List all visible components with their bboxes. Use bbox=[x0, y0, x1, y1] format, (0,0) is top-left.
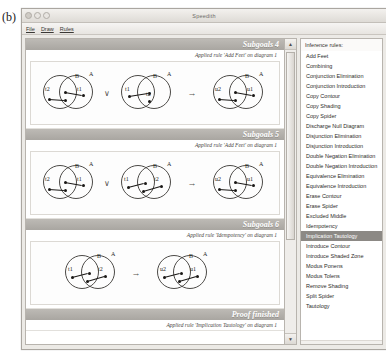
rule-list-item[interactable]: Discharge Null Diagram bbox=[301, 121, 382, 131]
contour-label-a: A bbox=[89, 161, 93, 167]
contour-circle[interactable] bbox=[173, 255, 207, 289]
spider-foot[interactable] bbox=[64, 99, 67, 102]
rule-list-item[interactable]: Combining bbox=[301, 61, 382, 71]
spider-label[interactable]: t2 bbox=[98, 266, 103, 272]
rule-list-item[interactable]: Double Negation Elimination bbox=[301, 151, 382, 161]
diagram-canvas[interactable]: BAt2t1∨BAt1t2→BAu2u1 bbox=[30, 151, 280, 215]
spider-foot[interactable] bbox=[88, 272, 91, 275]
menu-draw-label: Draw bbox=[41, 26, 54, 32]
spider-foot[interactable] bbox=[148, 100, 151, 103]
venn-diagram[interactable]: BAt2t1 bbox=[37, 71, 99, 115]
contour-label-a: A bbox=[259, 71, 263, 77]
venn-diagram[interactable]: BAu2u1 bbox=[151, 251, 213, 295]
rule-list-item[interactable]: Modus Tolens bbox=[301, 271, 382, 281]
rule-list-item[interactable]: Double Negation Introduction bbox=[301, 161, 382, 171]
proof-subgoal-section: Subgoals 4Applied rule 'Add Feet' on dia… bbox=[26, 39, 284, 129]
proof-vertical-scrollbar[interactable]: ▲ ▼ bbox=[285, 38, 297, 345]
venn-diagram[interactable]: BAu2u1 bbox=[207, 71, 269, 115]
inference-rules-panel: Inference rules: Add FeetCombiningConjun… bbox=[300, 38, 383, 345]
rule-list-item[interactable]: Erase Contour bbox=[301, 191, 382, 201]
scroll-down-arrow-icon[interactable]: ▼ bbox=[285, 333, 296, 344]
rule-list-item[interactable]: Implication Tautology bbox=[301, 231, 382, 241]
spider-foot[interactable] bbox=[234, 99, 237, 102]
applied-rule-text: Applied rule 'Add Feet' on diagram 1 bbox=[195, 142, 277, 148]
spider-foot[interactable] bbox=[252, 94, 255, 97]
scroll-up-arrow-icon[interactable]: ▲ bbox=[285, 39, 296, 50]
spider-label[interactable]: u1 bbox=[190, 266, 196, 272]
rule-list-item[interactable]: Modus Ponens bbox=[301, 261, 382, 271]
spider-foot[interactable] bbox=[234, 189, 237, 192]
spider-label[interactable]: t1 bbox=[125, 86, 130, 92]
contour-label-b: B bbox=[153, 163, 157, 169]
spider-label[interactable]: t1 bbox=[77, 86, 82, 92]
spider-label[interactable]: u2 bbox=[160, 266, 166, 272]
spider-label[interactable]: u1 bbox=[247, 176, 253, 182]
rule-list-item[interactable]: Disjunction Introduction bbox=[301, 141, 382, 151]
proof-finished-rule-row: Applied rule 'Implication Tautology' on … bbox=[26, 320, 284, 330]
inference-rules-list[interactable]: Add FeetCombiningConjunction Elimination… bbox=[301, 51, 382, 340]
venn-diagram[interactable]: BAt2t1 bbox=[37, 161, 99, 205]
venn-diagram[interactable]: BAt1t2 bbox=[115, 71, 177, 115]
implication-operator: → bbox=[177, 178, 207, 188]
menu-rules[interactable]: Rules bbox=[60, 26, 74, 32]
spider-label[interactable]: t2 bbox=[45, 176, 50, 182]
spider-foot[interactable] bbox=[252, 184, 255, 187]
spider-foot[interactable] bbox=[82, 184, 85, 187]
spider-foot[interactable] bbox=[180, 272, 183, 275]
rule-list-item[interactable]: Idempotency bbox=[301, 221, 382, 231]
menu-draw[interactable]: Draw bbox=[41, 26, 54, 32]
contour-label-b: B bbox=[75, 163, 79, 169]
rule-list-item[interactable]: Copy Spider bbox=[301, 111, 382, 121]
rule-list-item[interactable]: Equivalence Introduction bbox=[301, 181, 382, 191]
screenshot-root: (b) Speedith File Draw Rules Subgoals 4A… bbox=[0, 0, 386, 356]
rule-list-item[interactable]: Conjunction Elimination bbox=[301, 71, 382, 81]
venn-diagram[interactable]: BAu2u1 bbox=[207, 161, 269, 205]
rule-list-item[interactable]: Introduce Contour bbox=[301, 241, 382, 251]
figure-label: (b) bbox=[2, 10, 16, 25]
spider-foot[interactable] bbox=[64, 189, 67, 192]
rule-list-item[interactable]: Erase Spider bbox=[301, 201, 382, 211]
spider-label[interactable]: u2 bbox=[215, 176, 221, 182]
rule-list-item[interactable]: Split Spider bbox=[301, 291, 382, 301]
rule-list-item[interactable]: Introduce Shaded Zone bbox=[301, 251, 382, 261]
proof-finished-header[interactable]: Proof finished bbox=[26, 309, 284, 320]
diagram-canvas[interactable]: BAt1t2→BAu2u1 bbox=[30, 241, 280, 305]
subgoal-header-label: Subgoals 6 bbox=[243, 220, 279, 229]
rule-list-item[interactable]: Disjunction Elimination bbox=[301, 131, 382, 141]
rule-list-item[interactable]: Tautology bbox=[301, 301, 382, 311]
contour-circle[interactable] bbox=[81, 255, 115, 289]
contour-circle[interactable] bbox=[137, 165, 171, 199]
subgoal-header[interactable]: Subgoals 6 bbox=[26, 219, 284, 230]
spider-label[interactable]: t2 bbox=[146, 91, 151, 97]
spider-label[interactable]: t1 bbox=[68, 266, 73, 272]
scrollbar-thumb[interactable] bbox=[286, 52, 295, 240]
spider-label[interactable]: t1 bbox=[77, 176, 82, 182]
contour-circle[interactable] bbox=[137, 75, 171, 109]
rule-list-item[interactable]: Conjunction Introduction bbox=[301, 81, 382, 91]
spider-foot[interactable] bbox=[82, 94, 85, 97]
venn-diagram[interactable]: BAt1t2 bbox=[59, 251, 121, 295]
diagram-slot: BAu2u1 bbox=[207, 71, 269, 115]
diagram-canvas[interactable]: BAt2t1∨BAt1t2→BAu2u1 bbox=[30, 61, 280, 125]
rule-list-item[interactable]: Excluded Middle bbox=[301, 211, 382, 221]
spider-foot[interactable] bbox=[144, 182, 147, 185]
proof-panel[interactable]: Subgoals 4Applied rule 'Add Feet' on dia… bbox=[25, 38, 285, 345]
scrollbar-track[interactable] bbox=[285, 50, 296, 333]
rule-list-item[interactable]: Add Feet bbox=[301, 51, 382, 61]
subgoal-header[interactable]: Subgoals 5 bbox=[26, 129, 284, 140]
rule-list-item[interactable]: Remove Shading bbox=[301, 281, 382, 291]
proof-finished-section: Proof finishedApplied rule 'Implication … bbox=[26, 309, 284, 331]
spider-label[interactable]: t2 bbox=[45, 86, 50, 92]
rule-list-item[interactable]: Copy Shading bbox=[301, 101, 382, 111]
subgoal-header[interactable]: Subgoals 4 bbox=[26, 39, 284, 50]
spider-label[interactable]: u2 bbox=[215, 86, 221, 92]
spider-label[interactable]: t1 bbox=[124, 176, 129, 182]
menu-file-label: File bbox=[26, 26, 35, 32]
rule-list-item[interactable]: Equivalence Elimination bbox=[301, 171, 382, 181]
menu-file[interactable]: File bbox=[26, 26, 35, 32]
contour-label-b: B bbox=[245, 163, 249, 169]
venn-diagram[interactable]: BAt1t2 bbox=[115, 161, 177, 205]
spider-label[interactable]: t2 bbox=[154, 176, 159, 182]
spider-label[interactable]: u1 bbox=[247, 86, 253, 92]
rule-list-item[interactable]: Copy Contour bbox=[301, 91, 382, 101]
